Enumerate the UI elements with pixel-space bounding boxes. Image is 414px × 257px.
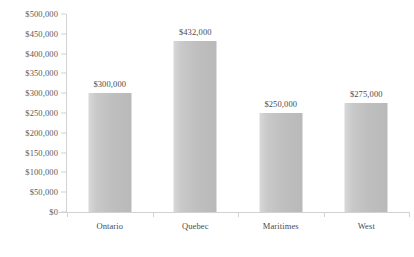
y-axis-tick-mark <box>61 53 66 54</box>
y-axis-tick-label: $400,000 <box>25 49 58 59</box>
y-axis-tick-label: $300,000 <box>25 88 58 98</box>
x-axis-tick-mark <box>153 212 154 217</box>
bar <box>88 93 131 212</box>
x-axis-category-label: West <box>358 221 375 231</box>
x-axis-category-label: Ontario <box>96 221 123 231</box>
bar-value-label: $250,000 <box>264 99 297 109</box>
bar-group: $432,000 <box>153 14 239 212</box>
y-axis-tick-mark <box>61 73 66 74</box>
y-axis-tick-label: $200,000 <box>25 128 58 138</box>
y-axis-tick-label: $350,000 <box>25 68 58 78</box>
y-axis-tick-label: $250,000 <box>25 108 58 118</box>
y-axis-tick-label: $500,000 <box>25 9 58 19</box>
y-axis-tick-label: $450,000 <box>25 29 58 39</box>
y-axis-tick-mark <box>61 212 66 213</box>
x-axis-category-label: Quebec <box>182 221 209 231</box>
x-axis-line <box>56 212 409 213</box>
bar-group: $275,000 <box>324 14 410 212</box>
y-axis-tick-labels: $500,000$450,000$400,000$350,000$300,000… <box>0 0 66 212</box>
bar-group: $300,000 <box>67 14 153 212</box>
x-axis-tick-mark <box>409 212 410 217</box>
y-axis-tick-mark <box>61 132 66 133</box>
y-axis-tick-mark <box>61 93 66 94</box>
bar-value-label: $275,000 <box>350 89 383 99</box>
x-axis-tick-mark <box>238 212 239 217</box>
x-axis-category-label: Maritimes <box>263 221 299 231</box>
y-axis-tick-mark <box>61 192 66 193</box>
bar-value-label: $300,000 <box>93 79 126 89</box>
y-axis-tick-label: $150,000 <box>25 148 58 158</box>
bar <box>345 103 388 212</box>
x-axis-category-labels: OntarioQuebecMaritimesWest <box>67 221 409 241</box>
bar <box>259 113 302 212</box>
y-axis-tick-label: $50,000 <box>30 187 58 197</box>
bar <box>174 41 217 212</box>
bar-chart: $500,000$450,000$400,000$350,000$300,000… <box>0 0 414 257</box>
y-axis-tick-mark <box>61 14 66 15</box>
y-axis-tick-mark <box>61 152 66 153</box>
y-axis-tick-mark <box>61 33 66 34</box>
plot-area: $300,000$432,000$250,000$275,000 <box>67 14 409 212</box>
bar-group: $250,000 <box>238 14 324 212</box>
x-axis-tick-mark <box>67 212 68 217</box>
y-axis-tick-label: $100,000 <box>25 167 58 177</box>
x-axis-tick-mark <box>324 212 325 217</box>
y-axis-tick-mark <box>61 113 66 114</box>
bar-value-label: $432,000 <box>179 27 212 37</box>
y-axis-tick-mark <box>61 172 66 173</box>
